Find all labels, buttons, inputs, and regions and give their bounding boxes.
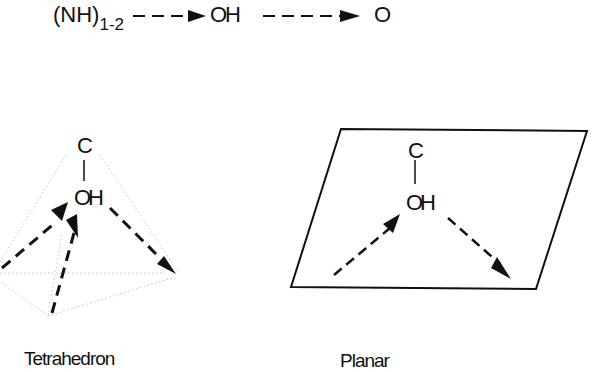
planar-arrows bbox=[334, 218, 500, 275]
arrowhead-icon bbox=[340, 10, 360, 22]
arrowhead-icon bbox=[66, 214, 78, 238]
acceptor-label: O bbox=[374, 2, 391, 28]
tetrahedron-caption: Tetrahedron bbox=[24, 348, 114, 370]
tetra-atom-c: C bbox=[77, 133, 93, 159]
planar-caption: Planar bbox=[340, 350, 389, 372]
planar-atom-oh: OH bbox=[406, 190, 433, 216]
arrowhead-icon bbox=[51, 202, 68, 221]
tetrahedron-edges bbox=[0, 155, 178, 316]
top-chain-arrows bbox=[133, 10, 360, 22]
middle-label: OH bbox=[210, 2, 239, 28]
donor-label: (NH)1-2 bbox=[53, 2, 124, 35]
donor-subscript: 1-2 bbox=[99, 15, 124, 34]
tetrahedron-arrows bbox=[2, 208, 160, 313]
arrowhead-icon bbox=[188, 10, 206, 22]
tetra-atom-oh: OH bbox=[74, 185, 101, 211]
arrowhead-icon bbox=[491, 257, 511, 279]
donor-text: (NH) bbox=[53, 2, 99, 27]
planar-plane bbox=[291, 129, 587, 289]
planar-atom-c: C bbox=[408, 138, 424, 164]
